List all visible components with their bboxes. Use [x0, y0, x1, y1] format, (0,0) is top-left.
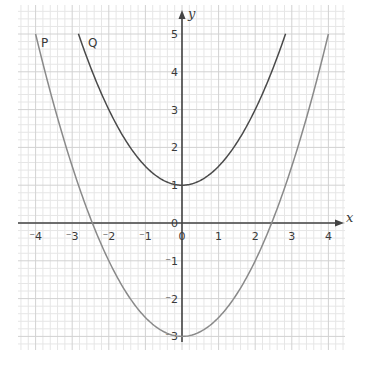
svg-text:⁻4: ⁻4	[29, 230, 42, 243]
svg-text:5: 5	[171, 28, 178, 41]
axes	[18, 10, 344, 342]
svg-text:⁻1: ⁻1	[139, 230, 152, 243]
curve-label-p: P	[41, 36, 48, 50]
svg-text:⁻3: ⁻3	[165, 330, 178, 343]
curve-label-q: Q	[88, 36, 97, 50]
x-axis-label: x	[346, 210, 354, 225]
svg-text:3: 3	[171, 104, 178, 117]
svg-text:0: 0	[171, 217, 178, 230]
svg-text:2: 2	[252, 230, 259, 243]
y-axis-label: y	[187, 6, 196, 21]
graph-canvas: ⁻4⁻3⁻2⁻112340⁻3⁻2⁻1012345 x y P Q	[0, 0, 373, 367]
svg-text:1: 1	[171, 179, 178, 192]
svg-text:3: 3	[288, 230, 295, 243]
svg-text:2: 2	[171, 141, 178, 154]
svg-text:4: 4	[325, 230, 332, 243]
svg-text:⁻2: ⁻2	[165, 293, 178, 306]
svg-text:⁻3: ⁻3	[66, 230, 79, 243]
svg-text:4: 4	[171, 66, 178, 79]
svg-text:0: 0	[179, 230, 186, 243]
svg-text:⁻2: ⁻2	[102, 230, 115, 243]
svg-text:1: 1	[215, 230, 222, 243]
svg-text:⁻1: ⁻1	[165, 255, 178, 268]
